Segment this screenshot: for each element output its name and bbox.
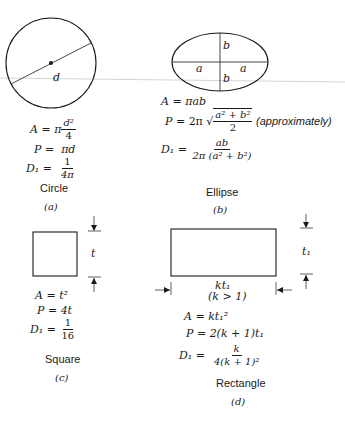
scan-artifact-line: [0, 78, 345, 82]
fraction-numerator: d²: [61, 118, 75, 130]
arrow-down-icon: [303, 222, 309, 228]
formula-lhs: P: [37, 304, 44, 317]
square-d1-formula: D₁ = 116: [30, 318, 76, 341]
ellipse-b-label-top: b: [223, 39, 230, 52]
formula-rhs: kt₁²: [208, 310, 228, 323]
approximation-note: (approximately): [256, 115, 332, 127]
formula-prefix: 2π √: [189, 115, 214, 128]
square-name-label: Square: [45, 353, 80, 365]
fraction-denominator: 16: [59, 330, 76, 341]
rectangle-t1-label: t₁: [302, 245, 311, 258]
circle-name-label: Circle: [40, 182, 68, 194]
rectangle-area-formula: A = kt₁²: [184, 310, 228, 323]
formula-equals: =: [197, 327, 206, 340]
formula-rhs: πab: [185, 95, 206, 108]
formula-equals: =: [196, 349, 205, 362]
ellipse-name-label: Ellipse: [206, 186, 238, 198]
fraction-denominator: 2: [228, 122, 238, 133]
ellipse-area-formula: A = πab: [161, 95, 206, 108]
square-caption: (c): [55, 372, 68, 383]
rectangle-outline: [171, 229, 276, 276]
arrow-right-icon: [164, 287, 170, 293]
formula-equals: =: [48, 304, 57, 317]
circle-perimeter-formula: P = πd: [34, 143, 75, 156]
circle-caption: (a): [44, 201, 58, 212]
square-root: a² + b²2: [213, 108, 252, 133]
rectangle-k-condition: (k > 1): [208, 290, 246, 303]
rectangle-name-label: Rectangle: [216, 377, 266, 389]
rectangle-perimeter-formula: P = 2(k + 1)t₁: [186, 327, 264, 340]
circle-center-dot: [49, 61, 53, 65]
fraction-numerator: a² + b²: [213, 110, 252, 122]
ellipse-b-label-bottom: b: [223, 72, 230, 85]
fraction-denominator: 4π: [59, 169, 76, 180]
formula-lhs: A: [35, 289, 43, 302]
fraction-numerator: ab: [214, 138, 230, 150]
formula-fraction: a² + b²2: [213, 110, 252, 133]
fraction-denominator: 4(k + 1)²: [212, 356, 261, 367]
fraction-numerator: k: [232, 344, 242, 356]
formula-lhs: A: [30, 123, 38, 136]
formula-equals: =: [41, 123, 50, 136]
circle-d1-formula: D₁ = 14π: [26, 157, 76, 180]
formula-fraction: d²4: [61, 118, 75, 141]
rectangle-d1-formula: D₁ = k4(k + 1)²: [179, 344, 261, 367]
ellipse-a-label-right: a: [240, 62, 247, 75]
formula-rhs: t²: [59, 289, 68, 302]
circle-diameter-label: d: [53, 71, 60, 84]
formula-lhs: D₁: [161, 143, 174, 156]
fraction-numerator: 1: [62, 157, 72, 169]
formula-equals: =: [46, 289, 55, 302]
formula-lhs: P: [34, 143, 41, 156]
ellipse-figure: [172, 33, 268, 91]
formula-rhs: 4t: [61, 304, 72, 317]
square-outline: [33, 232, 77, 276]
fraction-denominator: 2π (a² + b²): [190, 150, 253, 161]
fraction-denominator: 4: [63, 130, 73, 141]
formula-equals: =: [43, 162, 52, 175]
formula-lhs: A: [161, 95, 169, 108]
ellipse-a-label-left: a: [196, 62, 203, 75]
formula-lhs: D₁: [30, 323, 43, 336]
formula-fraction: 116: [59, 318, 76, 341]
fraction-numerator: 1: [63, 318, 73, 330]
formula-equals: =: [178, 143, 187, 156]
formula-equals: =: [45, 143, 54, 156]
formula-rhs: πd: [61, 143, 75, 156]
formula-equals: =: [195, 310, 204, 323]
ellipse-caption: (b): [213, 204, 227, 215]
square-perimeter-formula: P = 4t: [37, 304, 72, 317]
formula-fraction: ab2π (a² + b²): [190, 138, 253, 161]
circle-area-formula: A = πd²4: [30, 118, 76, 141]
arrow-up-icon: [303, 275, 309, 281]
ellipse-d1-formula: D₁ = ab2π (a² + b²): [161, 138, 254, 161]
formula-lhs: D₁: [179, 349, 192, 362]
formula-rhs: 2(k + 1)t₁: [210, 327, 264, 340]
rectangle-caption: (d): [231, 396, 245, 407]
square-area-formula: A = t²: [35, 289, 68, 302]
arrow-left-icon: [277, 287, 283, 293]
square-t-label: t: [91, 247, 95, 260]
formula-lhs: A: [184, 310, 192, 323]
formula-equals: =: [176, 115, 185, 128]
arrow-down-icon: [91, 225, 97, 231]
ellipse-perimeter-formula: P = 2π √a² + b²2 (approximately): [165, 108, 332, 133]
formula-equals: =: [47, 323, 56, 336]
formula-fraction: 14π: [59, 157, 76, 180]
formula-lhs: P: [165, 115, 172, 128]
circle-figure: [6, 18, 96, 108]
formula-prefix: π: [54, 123, 61, 136]
formula-lhs: P: [186, 327, 193, 340]
formula-equals: =: [172, 95, 181, 108]
formula-fraction: k4(k + 1)²: [212, 344, 261, 367]
arrow-up-icon: [91, 278, 97, 284]
formula-lhs: D₁: [26, 162, 39, 175]
rectangle-figure: [155, 214, 313, 295]
